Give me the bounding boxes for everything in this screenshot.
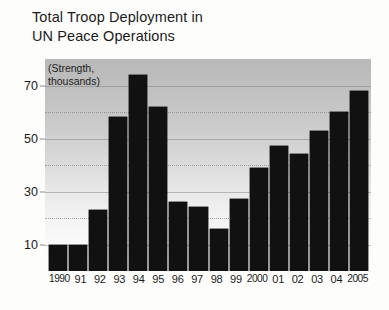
- bar-98: [210, 229, 228, 271]
- y-axis-tick-label-10: 10: [24, 238, 38, 252]
- y-axis-tick-label-50: 50: [24, 132, 38, 146]
- bar-97: [189, 207, 207, 271]
- bar-2005: [350, 91, 368, 271]
- x-axis-tick-label-96: 96: [169, 273, 186, 285]
- x-axis-tick-label-2000: 2000: [247, 273, 268, 285]
- bar-slot: [350, 59, 368, 271]
- bar-slot: [69, 59, 87, 271]
- x-axis-tick-label-99: 99: [227, 273, 244, 285]
- x-axis-tick-label-2005: 2005: [347, 273, 368, 285]
- bar-01: [270, 146, 288, 271]
- bar-slot: [109, 59, 127, 271]
- bar-slot: [290, 59, 308, 271]
- x-axis-tick-label-01: 01: [269, 273, 286, 285]
- bar-02: [290, 154, 308, 271]
- x-axis-tick-label-1990: 1990: [49, 273, 70, 285]
- x-axis-tick-label-92: 92: [91, 273, 108, 285]
- bar-slot: [129, 59, 147, 271]
- bar-slot: [250, 59, 268, 271]
- bar-slot: [210, 59, 228, 271]
- x-axis-tick-label-95: 95: [149, 273, 166, 285]
- y-axis-tick-label-70: 70: [24, 79, 38, 93]
- bar-slot: [169, 59, 187, 271]
- bar-92: [89, 210, 107, 271]
- x-axis-tick-label-97: 97: [188, 273, 205, 285]
- page-title-line-1: Total Troop Deployment in: [32, 8, 362, 27]
- bar-03: [310, 131, 328, 271]
- bar-series: [45, 59, 371, 271]
- bar-slot: [189, 59, 207, 271]
- bar-slot: [310, 59, 328, 271]
- bar-99: [230, 199, 248, 271]
- bar-95: [149, 107, 167, 271]
- bar-slot: [49, 59, 67, 271]
- x-axis-tick-label-03: 03: [308, 273, 325, 285]
- page-title: Total Troop Deployment in UN Peace Opera…: [32, 8, 362, 46]
- x-axis-tick-label-02: 02: [289, 273, 306, 285]
- bar-slot: [230, 59, 248, 271]
- x-axis-tick-label-94: 94: [130, 273, 147, 285]
- bar-94: [129, 75, 147, 271]
- x-axis-tick-label-93: 93: [111, 273, 128, 285]
- x-axis-tick-label-04: 04: [328, 273, 345, 285]
- bar-93: [109, 117, 127, 271]
- y-axis-tick-label-30: 30: [24, 185, 38, 199]
- bar-04: [330, 112, 348, 271]
- bar-slot: [270, 59, 288, 271]
- x-axis-tick-label-98: 98: [208, 273, 225, 285]
- bar-slot: [89, 59, 107, 271]
- bar-1990: [49, 245, 67, 272]
- bar-slot: [149, 59, 167, 271]
- bar-91: [69, 245, 87, 272]
- chart-plot-area: [45, 59, 371, 271]
- bar-slot: [330, 59, 348, 271]
- bar-2000: [250, 168, 268, 271]
- x-axis-tick-label-91: 91: [72, 273, 89, 285]
- page-title-line-2: UN Peace Operations: [32, 27, 362, 46]
- x-axis: 19909192939495969798992000010203042005: [45, 273, 371, 285]
- bar-96: [169, 202, 187, 271]
- y-axis: 10305070: [0, 59, 45, 271]
